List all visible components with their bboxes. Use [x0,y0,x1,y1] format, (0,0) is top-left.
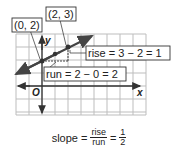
rise-annotation: rise = 3 − 2 = 1 [86,46,170,60]
x-axis-label: x [136,87,143,98]
svg-text:(2, 3): (2, 3) [48,8,74,20]
svg-text:rise = 3 − 2 = 1: rise = 3 − 2 = 1 [88,47,162,59]
point-2-3 [66,45,71,50]
y-axis-label: y [44,35,51,46]
one-half-fraction: 1 2 [119,128,126,147]
origin-label: O [32,87,40,98]
svg-text:run = 2 − 0 = 2: run = 2 − 0 = 2 [46,68,118,80]
equals-sign: = [110,132,116,144]
slope-formula: slope = rise run = 1 2 [0,128,178,147]
rise-over-run-fraction: rise run [90,128,107,147]
slope-prefix: slope = [52,132,88,144]
point-0-2 [40,59,45,64]
svg-text:(0, 2): (0, 2) [14,19,40,31]
label-point-2-3: (2, 3) [46,7,76,21]
point-1-2.5 [53,52,57,56]
label-point-0-2: (0, 2) [12,18,42,32]
run-annotation: run = 2 − 0 = 2 [44,67,126,81]
